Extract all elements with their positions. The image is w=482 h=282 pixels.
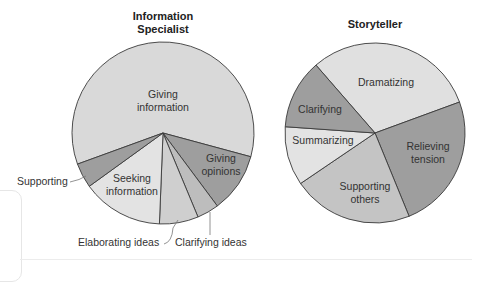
label-line: others	[330, 193, 400, 206]
slice-label-elaborating-ideas: Elaborating ideas	[78, 236, 159, 249]
slice-label-dramatizing: Dramatizing	[350, 76, 422, 89]
chart-title-right: Storyteller	[325, 18, 425, 31]
slice-label-clarifying-ideas: Clarifying ideas	[175, 236, 247, 249]
label-line: Supporting	[330, 180, 400, 193]
chart-title-left: Information Specialist	[113, 10, 213, 36]
slice-label-summarizing: Summarizing	[288, 134, 358, 147]
slice-label-giving-information: Giving information	[128, 88, 198, 114]
label-line: Giving	[196, 152, 246, 165]
label-line: Giving	[128, 88, 198, 101]
label-line: Relieving	[398, 140, 458, 153]
pie-information-specialist	[72, 42, 254, 224]
label-line: Seeking	[102, 172, 162, 185]
slice-label-supporting: Supporting	[17, 175, 68, 188]
title-line: Specialist	[113, 23, 213, 36]
label-line: opinions	[196, 165, 246, 178]
label-line: information	[102, 185, 162, 198]
slice-label-relieving-tension: Relieving tension	[398, 140, 458, 166]
title-line: Information	[113, 10, 213, 23]
slice-label-giving-opinions: Giving opinions	[196, 152, 246, 178]
slice-label-supporting-others: Supporting others	[330, 180, 400, 206]
slice-label-clarifying: Clarifying	[290, 103, 350, 116]
label-line: tension	[398, 153, 458, 166]
slice-label-seeking-information: Seeking information	[102, 172, 162, 198]
label-line: information	[128, 101, 198, 114]
